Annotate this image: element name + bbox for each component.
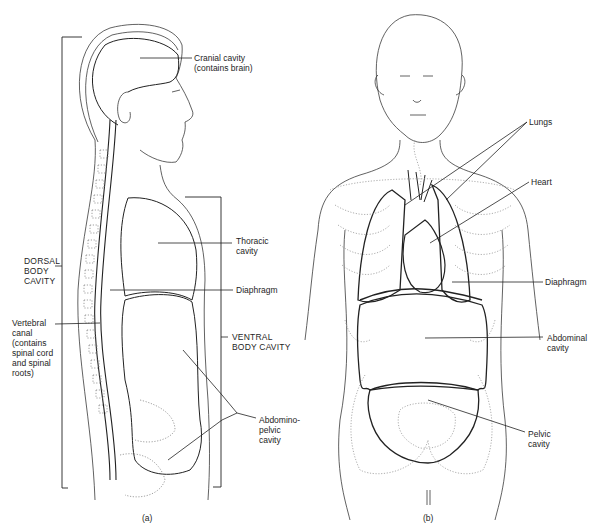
caption-a: (a) (142, 513, 152, 523)
label-abdominopelvic-cavity: Abdomino- pelvic cavity (259, 415, 300, 445)
label-heart: Heart (531, 177, 552, 187)
label-vertebral-canal: Vertebral canal (contains spinal cord an… (12, 318, 53, 378)
label-diaphragm-b: Diaphragm (545, 277, 587, 287)
label-thoracic-cavity: Thoracic cavity (236, 236, 269, 256)
label-lungs: Lungs (529, 117, 552, 127)
anatomy-illustration (0, 0, 604, 532)
label-dorsal-body-cavity: DORSAL BODY CAVITY (24, 256, 60, 286)
panel-b-figure (305, 15, 543, 520)
label-ventral-body-cavity: VENTRAL BODY CAVITY (232, 332, 291, 352)
panel-a-figure (55, 24, 256, 500)
label-pelvic-cavity: Pelvic cavity (528, 429, 551, 449)
caption-b: (b) (423, 513, 433, 523)
label-abdominal-cavity: Abdominal cavity (547, 333, 587, 353)
label-cranial-cavity: Cranial cavity (contains brain) (194, 53, 253, 73)
label-diaphragm-a: Diaphragm (236, 285, 278, 295)
